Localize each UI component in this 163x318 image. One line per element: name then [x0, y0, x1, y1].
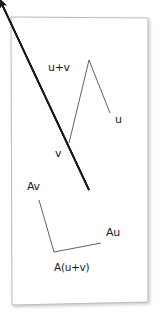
- edge-u-to-apex: [89, 60, 110, 113]
- edge-Au-to-Auv: [54, 243, 101, 252]
- edge-Av-to-Auv: [39, 200, 54, 252]
- vector-labels: u+v u v Av Au A(u+v): [27, 61, 122, 273]
- label-u: u: [115, 113, 122, 126]
- label-Av: Av: [27, 180, 41, 193]
- label-A-u-plus-v: A(u+v): [54, 261, 89, 273]
- upper-parallelogram: [69, 60, 110, 143]
- edge-v-to-apex: [69, 60, 89, 143]
- vector-arrows: [0, 0, 89, 190]
- label-Au: Au: [106, 226, 120, 239]
- diagram-canvas: u+v u v Av Au A(u+v): [0, 0, 163, 318]
- label-u-plus-v: u+v: [48, 61, 71, 74]
- vector-A-u-plus-v: [0, 0, 89, 190]
- vector-diagram: u+v u v Av Au A(u+v): [0, 0, 163, 318]
- label-v: v: [55, 147, 62, 160]
- lower-parallelogram: [39, 200, 101, 252]
